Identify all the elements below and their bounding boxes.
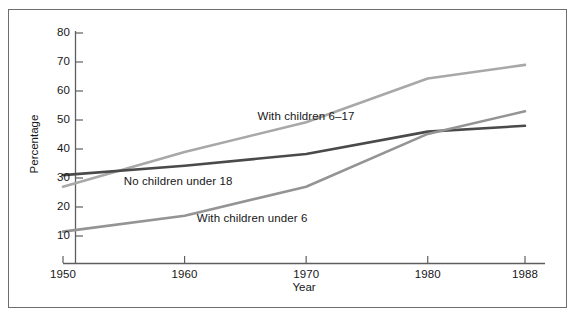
- series-line-with-children-6-17: [63, 65, 525, 187]
- x-tick-label-1988: 1988: [495, 268, 555, 280]
- y-tick-label-30: 30: [44, 171, 70, 183]
- y-tick-label-10: 10: [44, 229, 70, 241]
- y-tick-label-40: 40: [44, 142, 70, 154]
- y-tick-label-60: 60: [44, 84, 70, 96]
- series-annotation-0: With children 6–17: [258, 110, 355, 122]
- y-axis-ticks: [76, 33, 83, 236]
- series-annotation-1: No children under 18: [124, 175, 233, 187]
- chart-figure: Percentage Year 1020304050607080 1950196…: [0, 0, 577, 318]
- y-axis-title: Percentage: [28, 99, 40, 189]
- y-tick-label-50: 50: [44, 113, 70, 125]
- x-tick-label-1970: 1970: [276, 268, 336, 280]
- axis-lines: [63, 31, 545, 264]
- series-paths: [63, 65, 525, 232]
- y-tick-label-70: 70: [44, 55, 70, 67]
- x-axis-ticks: [63, 256, 525, 263]
- y-tick-label-80: 80: [44, 26, 70, 38]
- y-tick-label-20: 20: [44, 200, 70, 212]
- x-tick-label-1960: 1960: [155, 268, 215, 280]
- x-tick-label-1980: 1980: [398, 268, 458, 280]
- x-tick-label-1950: 1950: [33, 268, 93, 280]
- series-annotation-2: With children under 6: [197, 212, 308, 224]
- x-axis-title: Year: [264, 281, 344, 293]
